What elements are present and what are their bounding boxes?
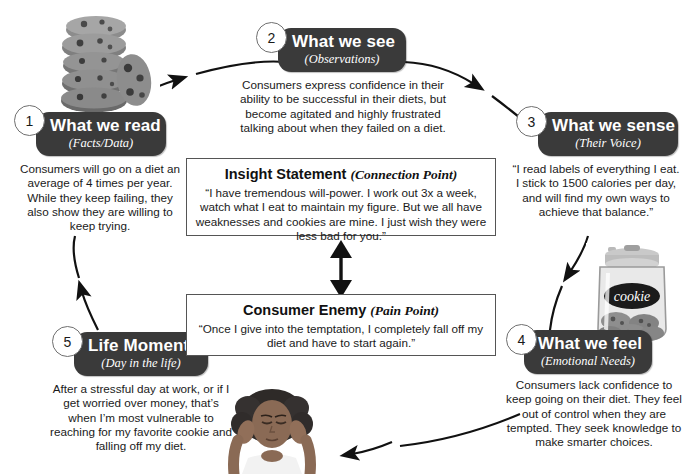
stage-1-title: What we read [50, 116, 152, 136]
stage-4-subtitle: (Emotional Needs) [538, 354, 638, 368]
stage-3-title: What we sense [552, 116, 664, 136]
stage-3-number-badge: 3 [516, 106, 547, 137]
insight-statement-heading: Insight Statement (Connection Point) [195, 165, 487, 184]
arrow-stage5-to-stage1 [82, 292, 98, 330]
stage-1-body: Consumers will go on a diet an average o… [16, 162, 184, 233]
stage-3-body: “I read labels of everything I eat. I st… [510, 162, 682, 219]
stage-5-number-badge: 5 [52, 326, 83, 357]
arrow-stage4-to-stage5 [352, 442, 392, 454]
cookie-stack-photo [48, 0, 160, 118]
arrow-stage5-to-stage1-tail [74, 236, 79, 278]
stage-5-body: After a stressful day at work, or if I g… [48, 382, 234, 453]
arrow-stage4-to-stage5-tail [400, 414, 520, 446]
stage-4-body: Consumers lack confidence to keep going … [506, 378, 682, 449]
insight-statement-heading-note: (Connection Point) [350, 167, 457, 182]
stressed-woman-photo [218, 386, 326, 474]
arrow-stage3-to-stage4-tail [550, 286, 562, 330]
stage-5-title: Life Moments [88, 336, 194, 356]
stage-1-subtitle: (Facts/Data) [50, 136, 152, 150]
consumer-enemy-heading: Consumer Enemy (Pain Point) [195, 301, 487, 320]
stage-1-pill[interactable]: What we read (Facts/Data) [36, 112, 166, 156]
insight-statement-box: Insight Statement (Connection Point) “I … [186, 158, 496, 236]
cookie-jar-label-text: cookie [614, 289, 651, 304]
consumer-enemy-body: “Once I give into the temptation, I comp… [195, 322, 487, 351]
stage-1-number-badge: 1 [14, 105, 45, 136]
consumer-enemy-heading-note: (Pain Point) [370, 303, 439, 318]
insight-statement-heading-main: Insight Statement [225, 166, 347, 182]
stage-3-pill[interactable]: What we sense (Their Voice) [538, 112, 678, 156]
stage-4-title: What we feel [538, 334, 638, 354]
stage-2-title: What we see [292, 32, 392, 52]
consumer-enemy-box: Consumer Enemy (Pain Point) “Once I give… [186, 294, 496, 356]
arrow-stage1-to-stage2-tail [196, 62, 286, 75]
insight-journey-diagram: cookie 1 What we read (Fa [0, 0, 688, 474]
stage-2-body: Consumers express confidence in their ab… [232, 78, 454, 135]
stage-2-number-badge: 2 [256, 22, 287, 53]
stage-4-pill[interactable]: What we feel (Emotional Needs) [524, 330, 652, 374]
consumer-enemy-heading-main: Consumer Enemy [243, 302, 366, 318]
stage-5-subtitle: (Day in the life) [88, 356, 194, 370]
stage-4-number-badge: 4 [506, 324, 537, 355]
stage-3-subtitle: (Their Voice) [552, 136, 664, 150]
insight-statement-body: “I have tremendous will-power. I work ou… [195, 186, 487, 243]
stage-2-subtitle: (Observations) [292, 52, 392, 66]
stage-2-pill[interactable]: What we see (Observations) [278, 28, 406, 72]
